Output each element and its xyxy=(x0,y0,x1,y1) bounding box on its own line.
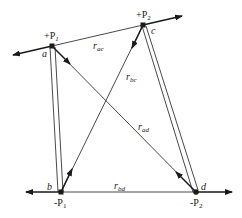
charge-label-plus-p2: +P2 xyxy=(136,10,151,22)
node-c xyxy=(141,23,146,28)
point-label-d: d xyxy=(201,182,206,192)
line-ad xyxy=(52,46,196,192)
arrow-c-bc xyxy=(132,25,143,48)
node-a xyxy=(50,44,55,49)
node-d xyxy=(193,189,199,195)
distance-label-rbd: rbd xyxy=(114,181,125,193)
distance-label-rbc: rbc xyxy=(126,72,137,84)
distance-label-rac: rac xyxy=(93,41,104,53)
charge-label-plus-p1: +P1 xyxy=(44,31,59,43)
charge-label-minus-p1: -P1 xyxy=(54,198,66,210)
point-label-b: b xyxy=(47,182,52,192)
distance-label-rad: rad xyxy=(138,122,149,134)
charge-label-minus-p2: -P2 xyxy=(190,198,202,210)
arrow-a-ad xyxy=(52,46,70,64)
node-b xyxy=(59,190,64,195)
point-label-c: c xyxy=(151,26,155,36)
dipole-diagram: +P1 +P2 -P1 -P2 a c b d rac rbc rad rbd xyxy=(0,0,242,218)
point-label-a: a xyxy=(42,49,47,59)
